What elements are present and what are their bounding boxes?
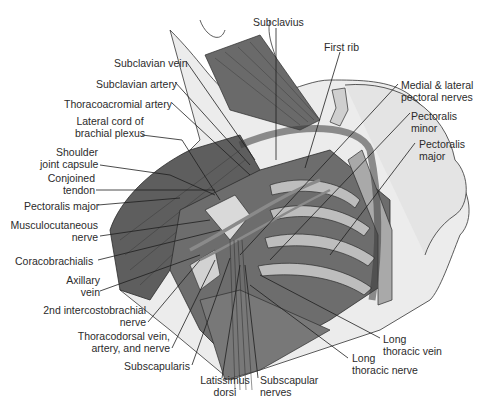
label-conjoined-tendon: Conjoined tendon — [40, 172, 95, 196]
label-long-thoracic-vein-line2: thoracic vein — [383, 345, 442, 357]
label-subscapularis: Subscapularis — [124, 360, 190, 372]
label-pectoralis-major-right-line2: major — [419, 150, 465, 162]
label-long-thoracic-nerve-line2: thoracic nerve — [352, 364, 418, 376]
label-pectoral-nerves-line2: pectoral nerves — [401, 91, 473, 103]
label-subscapular-nerves-line1: Subscapular — [260, 374, 318, 386]
label-subclavian-vein: Subclavian vein — [114, 57, 188, 69]
label-pectoral-nerves: Medial & lateral pectoral nerves — [401, 79, 473, 103]
label-subscapular-nerves: Subscapular nerves — [260, 374, 318, 398]
label-shoulder-capsule: Shoulder joint capsule — [40, 146, 98, 170]
label-pectoralis-major-right-line1: Pectoralis — [419, 138, 465, 150]
label-thoracodorsal-line1: Thoracodorsal vein, — [76, 330, 170, 342]
label-musculocutaneous-line2: nerve — [10, 231, 98, 243]
label-latissimus-dorsi: Latissimus dorsi — [196, 374, 254, 398]
label-intercostobrachial-line1: 2nd intercostobrachial — [34, 304, 146, 316]
label-pectoralis-minor-line2: minor — [411, 122, 457, 134]
label-musculocutaneous-nerve: Musculocutaneous nerve — [10, 219, 98, 243]
label-thoracodorsal: Thoracodorsal vein, artery, and nerve — [76, 330, 170, 354]
label-pectoralis-major-left: Pectoralis major — [24, 200, 99, 212]
label-intercostobrachial-line2: nerve — [34, 316, 146, 328]
label-intercostobrachial-nerve: 2nd intercostobrachial nerve — [34, 304, 146, 328]
label-coracobrachialis: Coracobrachialis — [15, 255, 93, 267]
label-thoracoacromial-artery: Thoracoacromial artery — [64, 98, 172, 110]
label-latissimus-line1: Latissimus — [196, 374, 254, 386]
label-conjoined-tendon-line1: Conjoined — [40, 172, 95, 184]
label-long-thoracic-vein-line1: Long — [383, 333, 442, 345]
label-pectoralis-major-right: Pectoralis major — [419, 138, 465, 162]
label-shoulder-capsule-line2: joint capsule — [40, 158, 98, 170]
label-shoulder-capsule-line1: Shoulder — [40, 146, 98, 158]
label-lateral-cord: Lateral cord of brachial plexus — [74, 115, 146, 139]
label-axillary-vein-line1: Axillary — [55, 274, 100, 286]
label-conjoined-tendon-line2: tendon — [40, 184, 95, 196]
label-long-thoracic-vein: Long thoracic vein — [383, 333, 442, 357]
label-pectoralis-minor: Pectoralis minor — [411, 110, 457, 134]
label-musculocutaneous-line1: Musculocutaneous — [10, 219, 98, 231]
label-subclavius: Subclavius — [253, 16, 304, 28]
label-pectoralis-minor-line1: Pectoralis — [411, 110, 457, 122]
label-axillary-vein-line2: vein — [55, 286, 100, 298]
label-subclavian-artery: Subclavian artery — [96, 78, 177, 90]
label-thoracodorsal-line2: artery, and nerve — [76, 342, 170, 354]
label-subscapular-nerves-line2: nerves — [260, 386, 318, 398]
label-lateral-cord-line2: brachial plexus — [74, 127, 146, 139]
label-lateral-cord-line1: Lateral cord of — [74, 115, 146, 127]
label-axillary-vein: Axillary vein — [55, 274, 100, 298]
label-pectoral-nerves-line1: Medial & lateral — [401, 79, 473, 91]
label-first-rib: First rib — [324, 41, 359, 53]
label-latissimus-line2: dorsi — [196, 386, 254, 398]
